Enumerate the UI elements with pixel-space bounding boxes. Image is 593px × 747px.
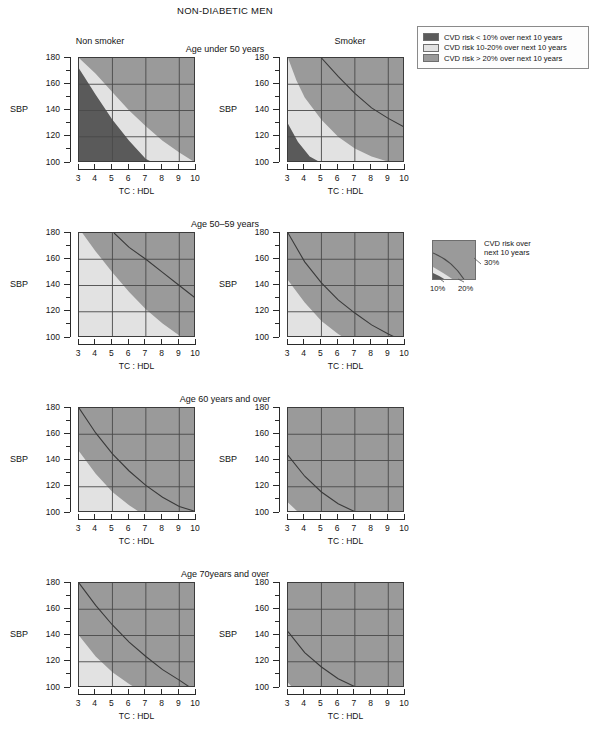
risk-legend: CVD risk < 10% over next 10 years CVD ri… [417, 26, 589, 69]
x-tick-label: 8 [156, 698, 168, 708]
x-tick [78, 689, 79, 695]
x-tick [161, 514, 162, 520]
x-tick-label: 7 [139, 348, 151, 358]
y-minor-tick [66, 472, 70, 473]
y-tick-label: 180 [38, 227, 60, 237]
y-tick-label: 140 [247, 454, 269, 464]
y-tick-label: 120 [247, 305, 269, 315]
x-tick [144, 164, 145, 170]
x-tick-label: 3 [281, 173, 293, 183]
risk-panel-plot [78, 57, 195, 162]
y-tick-label: 140 [247, 629, 269, 639]
x-tick-label: 7 [348, 348, 360, 358]
y-tick-label: 180 [38, 52, 60, 62]
x-tick [337, 514, 338, 520]
risk-panel[interactable]: 180160140120100345678910TC : HDLSBP [78, 407, 195, 512]
x-tick [387, 339, 388, 345]
x-tick [178, 339, 179, 345]
x-tick-label: 9 [381, 698, 393, 708]
x-tick-label: 6 [331, 348, 343, 358]
x-tick-label: 8 [156, 523, 168, 533]
risk-panel-plot [78, 407, 195, 512]
x-tick [144, 689, 145, 695]
y-tick [64, 284, 70, 285]
risk-panel[interactable]: 180160140120100345678910TC : HDLSBP [287, 407, 404, 512]
x-tick [144, 339, 145, 345]
x-tick [303, 514, 304, 520]
y-tick [273, 109, 279, 110]
y-tick [273, 634, 279, 635]
y-tick-label: 180 [247, 402, 269, 412]
y-axis-title: SBP [6, 104, 32, 114]
x-tick [111, 164, 112, 170]
y-tick-label: 160 [38, 78, 60, 88]
y-minor-tick [275, 647, 279, 648]
risk-panel[interactable]: 180160140120100345678910TC : HDLSBP [287, 582, 404, 687]
contour-legend-caption-2: next 10 years [484, 248, 530, 257]
x-tick [195, 689, 196, 695]
x-tick-label: 3 [72, 698, 84, 708]
y-minor-tick [275, 70, 279, 71]
x-tick [195, 339, 196, 345]
x-tick-label: 4 [89, 348, 101, 358]
y-tick [273, 512, 279, 513]
y-tick-label: 120 [38, 130, 60, 140]
contour-legend-caption-1: CVD risk over [484, 239, 531, 248]
x-tick-label: 5 [105, 698, 117, 708]
y-tick [273, 310, 279, 311]
y-axis [279, 57, 280, 162]
legend-item-under-10: CVD risk < 10% over next 10 years [423, 33, 584, 42]
x-tick-label: 6 [122, 698, 134, 708]
y-tick [64, 162, 70, 163]
x-tick [337, 689, 338, 695]
x-tick [287, 164, 288, 170]
y-tick-label: 180 [38, 402, 60, 412]
y-minor-tick [66, 647, 70, 648]
x-tick-label: 5 [314, 698, 326, 708]
y-tick [64, 310, 70, 311]
y-axis-title: SBP [215, 279, 241, 289]
x-tick-label: 10 [398, 348, 410, 358]
x-tick-label: 8 [365, 173, 377, 183]
y-tick [273, 407, 279, 408]
y-tick [64, 258, 70, 259]
legend-label-under-10: CVD risk < 10% over next 10 years [444, 33, 562, 42]
x-tick-label: 3 [72, 348, 84, 358]
legend-swatch-under-10 [423, 33, 439, 41]
x-tick-label: 6 [331, 698, 343, 708]
y-tick [273, 337, 279, 338]
x-tick [404, 514, 405, 520]
risk-panel[interactable]: 180160140120100345678910TC : HDLSBP [287, 232, 404, 337]
x-tick [94, 339, 95, 345]
y-tick-label: 160 [247, 603, 269, 613]
legend-item-over-20: CVD risk > 20% over next 10 years [423, 54, 584, 63]
risk-panel[interactable]: 180160140120100345678910TC : HDLSBP [78, 582, 195, 687]
x-tick-label: 3 [281, 348, 293, 358]
y-tick-label: 180 [247, 227, 269, 237]
x-tick [287, 514, 288, 520]
x-tick [94, 514, 95, 520]
risk-panel[interactable]: 180160140120100345678910TC : HDLSBP [78, 232, 195, 337]
y-tick [64, 512, 70, 513]
x-tick [178, 514, 179, 520]
page-title: NON-DIABETIC MEN [0, 5, 450, 16]
x-tick-label: 4 [298, 698, 310, 708]
x-tick [387, 514, 388, 520]
y-tick-label: 180 [247, 52, 269, 62]
y-tick [64, 485, 70, 486]
x-tick [111, 514, 112, 520]
x-tick [353, 514, 354, 520]
x-tick-label: 10 [189, 173, 201, 183]
risk-panel[interactable]: 180160140120100345678910TC : HDLSBP [78, 57, 195, 162]
x-tick-label: 3 [281, 523, 293, 533]
x-tick [353, 164, 354, 170]
y-tick [64, 459, 70, 460]
y-minor-tick [275, 621, 279, 622]
x-tick [337, 164, 338, 170]
x-tick-label: 7 [348, 698, 360, 708]
risk-panel[interactable]: 180160140120100345678910TC : HDLSBP [287, 57, 404, 162]
y-tick [273, 83, 279, 84]
y-tick-label: 140 [247, 279, 269, 289]
y-axis [70, 582, 71, 687]
y-tick [273, 57, 279, 58]
